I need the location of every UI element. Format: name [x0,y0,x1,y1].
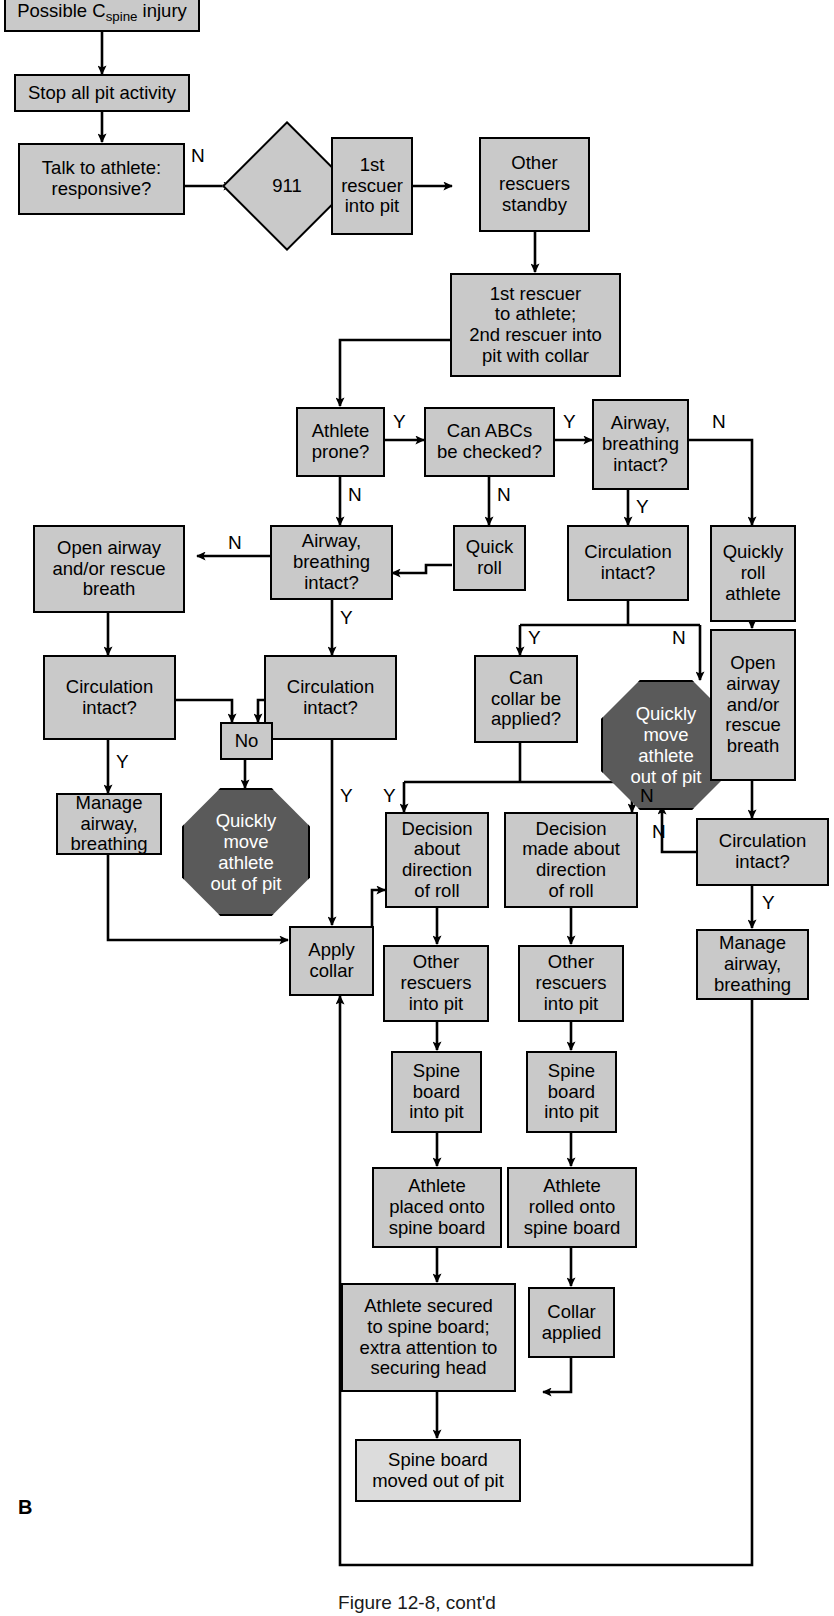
node-1st-rescuer-to-athlete[interactable]: 1st rescuer to athlete; 2nd rescuer into… [450,273,621,377]
node-label: Possible Cspine injury [17,1,187,25]
node-circulation-intact-right[interactable]: Circulation intact? [567,525,689,601]
edge-label-y-abcs: Y [563,412,576,431]
edge-label-y-circ-right: Y [528,628,541,647]
node-label: Open airway and/or rescue breath [725,653,781,757]
edge-label-n-circ-right: N [672,628,686,647]
node-label: Circulation intact? [719,831,806,872]
node-airway-breathing-intact-mid[interactable]: Airway, breathing intact? [270,525,393,600]
node-label: Open airway and/or rescue breath [52,538,165,600]
node-label: Other rescuers into pit [401,952,472,1014]
node-label: Athlete secured to spine board; extra at… [360,1296,498,1379]
edge-label-y-circ-far: Y [762,893,775,912]
node-label: Collar applied [542,1302,602,1343]
node-manage-airway-breathing-right[interactable]: Manage airway, breathing [696,929,809,1000]
node-spine-board-into-pit-left[interactable]: Spine board into pit [391,1051,482,1133]
node-talk-to-athlete-responsive[interactable]: Talk to athlete: responsive? [18,143,185,215]
node-label: Stop all pit activity [28,83,176,104]
node-label: Talk to athlete: responsive? [42,158,161,199]
node-label: Manage airway, breathing [714,933,791,995]
edge-label-y-circ-left: Y [116,752,129,771]
node-quickly-move-athlete-out-of-pit-left[interactable]: Quickly move athlete out of pit [182,788,310,916]
node-label: Quick roll [466,537,513,578]
edge-label-y-airway-mid: Y [340,608,353,627]
node-label: Circulation intact? [287,677,374,718]
node-decision-about-direction-of-roll[interactable]: Decision about direction of roll [385,812,489,908]
node-label: Decision made about direction of roll [522,819,620,902]
flowchart-canvas: Possible Cspine injury Stop all pit acti… [0,0,834,1616]
node-label: 1st rescuer into pit [341,155,403,217]
node-stop-all-pit-activity[interactable]: Stop all pit activity [14,74,190,112]
node-quickly-roll-athlete[interactable]: Quickly roll athlete [710,525,796,622]
node-label: Athlete rolled onto spine board [524,1176,621,1238]
node-label: Apply collar [308,940,354,981]
node-open-airway-rescue-breath-right[interactable]: Open airway and/or rescue breath [710,629,796,781]
node-manage-airway-breathing-left[interactable]: Manage airway, breathing [56,793,162,855]
node-label: Quickly roll athlete [723,542,784,604]
node-can-collar-be-applied[interactable]: Can collar be applied? [474,655,578,743]
edge-label-y-athlete-prone: Y [393,412,406,431]
edge-label-n-collar: N [640,786,654,805]
node-open-airway-rescue-breath-left[interactable]: Open airway and/or rescue breath [33,525,185,613]
node-label: Airway, breathing intact? [293,531,370,593]
node-label: Other rescuers into pit [536,952,607,1014]
node-athlete-placed-onto-spine-board[interactable]: Athlete placed onto spine board [372,1167,502,1248]
node-spine-board-moved-out-of-pit[interactable]: Spine board moved out of pit [355,1439,521,1502]
node-no[interactable]: No [220,722,273,760]
edge-label-n-athlete-prone: N [348,485,362,504]
edge-label-y-circ-mid: Y [340,786,353,805]
edge-label-n-abcs: N [497,485,511,504]
node-other-rescuers-standby[interactable]: Other rescuers standby [479,137,590,232]
node-circulation-intact-far-right[interactable]: Circulation intact? [696,818,829,886]
node-label: Quickly move athlete out of pit [211,810,282,894]
node-other-rescuers-into-pit-left[interactable]: Other rescuers into pit [383,945,489,1022]
node-athlete-prone[interactable]: Athlete prone? [296,407,385,477]
edge-label-n-airway-right: N [712,412,726,431]
node-label: Quickly move athlete out of pit [631,703,702,787]
node-label: Spine board moved out of pit [372,1450,504,1491]
node-label: Circulation intact? [584,542,671,583]
node-label: 1st rescuer to athlete; 2nd rescuer into… [469,284,602,367]
edge-label-y-collar: Y [383,786,396,805]
node-label: Circulation intact? [66,677,153,718]
node-circulation-intact-left[interactable]: Circulation intact? [43,655,176,740]
node-label: Athlete placed onto spine board [389,1176,486,1238]
node-apply-collar[interactable]: Apply collar [289,926,374,996]
node-label: Spine board into pit [409,1061,464,1123]
node-athlete-rolled-onto-spine-board[interactable]: Athlete rolled onto spine board [507,1167,637,1248]
node-label: Spine board into pit [544,1061,599,1123]
node-911-label: 911 [241,140,333,232]
node-quick-roll[interactable]: Quick roll [453,525,526,591]
node-possible-c-spine-injury[interactable]: Possible Cspine injury [4,0,200,32]
node-label small: Manage airway, breathing [70,793,147,855]
node-label: Can collar be applied? [491,668,561,730]
node-athlete-secured-to-spine-board[interactable]: Athlete secured to spine board; extra at… [341,1283,516,1392]
node-label: Can ABCs be checked? [437,421,542,462]
node-can-abcs-be-checked[interactable]: Can ABCs be checked? [424,407,555,477]
node-spine-board-into-pit-right[interactable]: Spine board into pit [526,1051,617,1133]
node-label: No [235,731,259,752]
node-circulation-intact-mid[interactable]: Circulation intact? [264,655,397,740]
panel-letter: B [18,1496,32,1519]
node-label: Decision about direction of roll [402,819,473,902]
edge-label-n-circ-far: N [652,822,666,841]
edge-label-y-airway-right: Y [636,497,649,516]
node-airway-breathing-intact-right[interactable]: Airway, breathing intact? [592,399,689,490]
edge-label-n-airway-mid: N [228,533,242,552]
node-other-rescuers-into-pit-right[interactable]: Other rescuers into pit [518,945,624,1022]
node-label: Other rescuers standby [499,153,570,215]
node-decision-made-about-direction-of-roll[interactable]: Decision made about direction of roll [504,812,638,908]
node-label: Airway, breathing intact? [602,413,679,475]
figure-caption: Figure 12-8, cont'd [0,1592,834,1614]
node-label: Athlete prone? [312,421,370,462]
node-collar-applied[interactable]: Collar applied [528,1287,615,1358]
edge-label-n-responsive: N [191,146,205,165]
node-1st-rescuer-into-pit[interactable]: 1st rescuer into pit [331,137,413,235]
